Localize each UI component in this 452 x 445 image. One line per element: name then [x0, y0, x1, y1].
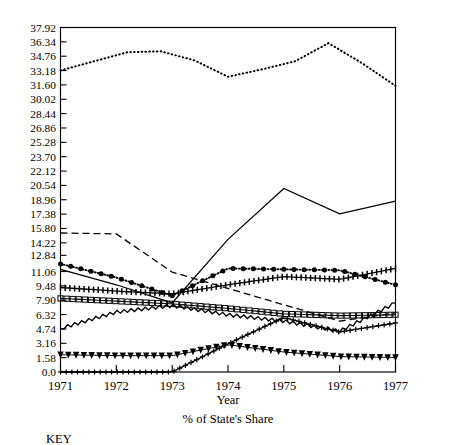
y-axis-tick-label: 0.0: [42, 366, 57, 378]
x-axis-label: Year: [216, 393, 240, 407]
x-axis-tick-label: 1976: [327, 379, 352, 393]
y-axis-tick-label: 23.70: [30, 151, 56, 163]
plus-marker: [359, 326, 364, 331]
chart-figure: 37.9236.3434.7633.1831.6030.0228.4426.86…: [0, 0, 452, 445]
plus-marker: [268, 321, 273, 326]
y-axis-tick-label: 22.12: [30, 165, 56, 177]
plus-marker: [313, 323, 318, 328]
x-axis-tick-marks: [61, 365, 396, 372]
circle-marker: [271, 267, 276, 272]
plus-marker: [137, 369, 142, 374]
circle-marker: [68, 264, 73, 269]
x-axis-tick-label: 1971: [48, 379, 73, 393]
plus-marker: [387, 321, 392, 326]
plus-marker: [120, 369, 125, 374]
key-heading: KEY: [46, 432, 72, 445]
circle-marker: [231, 266, 236, 271]
series-dotted-top: [61, 43, 396, 86]
line-chart: 37.9236.3434.7633.1831.6030.0228.4426.86…: [0, 0, 452, 445]
circle-marker: [393, 282, 398, 287]
y-axis-tick-label: 20.54: [30, 179, 56, 191]
y-axis-tick-marks: [61, 28, 67, 373]
cut-off-title-text: [118, 0, 398, 7]
plus-marker: [257, 327, 262, 332]
circle-marker: [251, 266, 256, 271]
x-axis-tick-label: 1975: [271, 379, 296, 393]
circle-marker: [241, 266, 246, 271]
y-axis-tick-label: 11.06: [31, 266, 57, 278]
circle-marker: [373, 277, 378, 282]
x-axis-tick-labels: 1971197219731974197519761977: [48, 379, 408, 393]
plus-marker: [98, 369, 103, 374]
plus-marker: [109, 369, 114, 374]
y-axis-tick-label: 31.60: [30, 79, 56, 91]
plus-marker: [69, 369, 74, 374]
y-axis-tick-label: 25.28: [30, 136, 56, 148]
y-axis-tick-label: 37.92: [30, 22, 56, 34]
y-axis-tick-label: 18.96: [30, 194, 56, 206]
plus-marker: [86, 369, 91, 374]
circle-marker: [99, 271, 104, 276]
circle-marker: [58, 261, 63, 266]
plus-marker: [251, 329, 256, 334]
y-axis-tick-label: 34.76: [30, 50, 56, 62]
plus-marker: [166, 369, 171, 374]
y-axis-tick-label: 1.58: [36, 352, 56, 364]
plus-marker: [143, 369, 148, 374]
plus-marker: [194, 357, 199, 362]
circle-marker: [200, 278, 205, 283]
circle-marker: [322, 268, 327, 273]
plus-marker: [353, 327, 358, 332]
plus-marker: [393, 320, 398, 325]
plus-marker: [154, 369, 159, 374]
plus-marker: [160, 369, 165, 374]
circle-marker: [220, 268, 225, 273]
circle-marker: [210, 273, 215, 278]
plus-marker: [365, 325, 370, 330]
circle-marker: [261, 267, 266, 272]
y-axis-tick-label: 15.80: [30, 222, 56, 234]
plus-marker: [81, 369, 86, 374]
y-axis-tick-label: 14.22: [30, 237, 56, 249]
plus-marker: [262, 324, 267, 329]
y-axis-tick-label: 9.48: [36, 280, 56, 292]
circle-marker: [302, 267, 307, 272]
plus-marker: [234, 337, 239, 342]
plus-marker: [382, 322, 387, 327]
plus-marker: [126, 369, 131, 374]
y-axis-tick-label: 36.34: [30, 36, 56, 48]
y-axis-tick-label: 6.32: [36, 309, 56, 321]
y-axis-tick-label: 26.86: [30, 122, 56, 134]
x-axis-tick-label: 1974: [216, 379, 242, 393]
y-axis-tick-label: 28.44: [30, 108, 56, 120]
circle-marker: [78, 266, 83, 271]
circle-marker: [312, 267, 317, 272]
plus-marker: [103, 369, 108, 374]
y-axis-tick-label: 33.18: [30, 65, 56, 77]
circle-marker: [88, 269, 93, 274]
y-axis-tick-label: 3.16: [36, 337, 56, 349]
y-axis-tick-label: 17.38: [30, 208, 56, 220]
circle-marker: [383, 280, 388, 285]
plus-marker: [245, 332, 250, 337]
circle-marker: [281, 267, 286, 272]
plus-marker: [64, 369, 69, 374]
y-axis-tick-label: 12.84: [30, 249, 56, 261]
circle-marker: [109, 274, 114, 279]
plus-marker: [92, 369, 97, 374]
chart-caption: % of State's Share: [183, 412, 274, 426]
y-axis-tick-label: 7.90: [36, 294, 56, 306]
circle-marker: [291, 267, 296, 272]
plus-marker: [370, 324, 375, 329]
plot-series-group: [57, 43, 398, 374]
plus-marker: [200, 354, 205, 359]
y-axis-tick-label: 4.74: [36, 323, 56, 335]
series-solid-rising: [61, 188, 396, 302]
circle-marker: [139, 283, 144, 288]
plus-marker: [132, 369, 137, 374]
circle-marker: [332, 268, 337, 273]
plus-marker: [188, 360, 193, 365]
plus-marker: [149, 369, 154, 374]
plus-marker: [325, 326, 330, 331]
x-axis-tick-label: 1972: [104, 379, 129, 393]
